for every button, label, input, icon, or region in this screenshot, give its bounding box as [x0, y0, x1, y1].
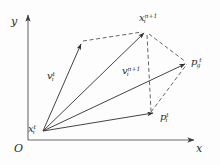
vector-diagram-figure: y x O xit xin+1 pgt pit vit vin+1	[0, 0, 220, 165]
dashed-x-next-to-p-g	[149, 34, 186, 62]
x-axis-label: x	[196, 143, 202, 154]
vector-v-i-t	[43, 44, 81, 131]
label-p-g-t: pgt	[191, 52, 202, 68]
label-v-i-t-sup: t	[53, 70, 55, 77]
label-p-i-t: pit	[160, 107, 169, 123]
label-x-i-n1-sup: n+1	[145, 12, 158, 19]
dashed-v-n1-guide	[147, 35, 151, 111]
label-x-i-t-sup: t	[34, 123, 36, 130]
vector-x-to-p-i	[43, 113, 153, 131]
y-axis-label: y	[11, 16, 17, 27]
label-p-g-t-sup: t	[199, 56, 201, 63]
dashed-v-top-to-x-next	[83, 32, 142, 41]
label-v-i-t: vit	[47, 66, 55, 82]
label-x-i-n1: xin+1	[139, 8, 157, 24]
label-v-i-n1: vin+1	[122, 61, 140, 77]
vector-x-to-x-next	[43, 33, 144, 131]
origin-label: O	[14, 143, 23, 154]
label-v-i-n1-sup: n+1	[128, 65, 141, 72]
label-x-i-t: xit	[28, 119, 36, 135]
label-p-i-t-sup: t	[166, 111, 168, 118]
diagram-canvas	[0, 0, 220, 165]
